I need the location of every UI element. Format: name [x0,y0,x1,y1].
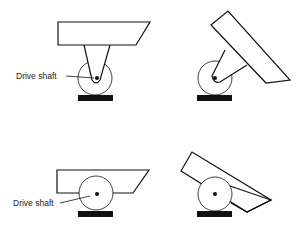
drive-shaft [213,76,217,80]
label-pointer [66,76,94,78]
ground-block [197,211,232,217]
drive-shaft [213,192,217,196]
ground-block [197,95,232,101]
platform [58,22,150,45]
drive-shaft [95,192,99,196]
drive-shaft [95,76,99,80]
panel-bottom-right [181,152,271,217]
panel-bottom-left [57,170,149,217]
ground-block [78,211,113,217]
drive-shaft-label-bottom: Drive shaft [13,198,54,208]
panel-top-left [58,22,150,101]
drive-shaft-label-top: Drive shaft [16,71,57,81]
ground-block [78,95,113,101]
diagram-canvas [0,0,302,227]
panel-top-right [197,11,290,101]
